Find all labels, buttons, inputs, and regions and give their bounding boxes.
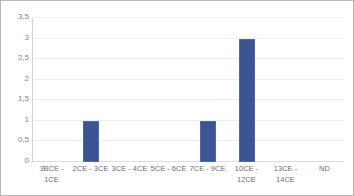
bar[interactable]: [239, 39, 255, 162]
y-axis-tick-label-1-5: 1,5: [3, 95, 29, 103]
bar[interactable]: [83, 121, 99, 162]
y-axis-tick-label-0-5: 0,5: [3, 136, 29, 144]
y-axis-tick-label-0: 0: [3, 157, 29, 165]
bar[interactable]: [200, 121, 216, 162]
x-axis-category-label: 3CE - 4CE: [110, 164, 149, 186]
y-axis-tick-label-3-5: 3,5: [3, 13, 29, 21]
y-axis-tick-label-2-5: 2,5: [3, 54, 29, 62]
x-axis-category-label: 3BCE - 1CE: [32, 164, 71, 186]
x-axis-category-label: 7CE - 9CE: [188, 164, 227, 186]
bar-slot: [188, 18, 227, 162]
bar-slot: [305, 18, 344, 162]
bar-slot: [71, 18, 110, 162]
y-axis-tick-label-1: 1: [3, 116, 29, 124]
bar-slot: [227, 18, 266, 162]
bar-series: [32, 18, 344, 162]
x-axis-category-label: 2CE - 3CE: [71, 164, 110, 186]
bar-slot: [149, 18, 188, 162]
y-axis-tick-label-2: 2: [3, 75, 29, 83]
bar-chart-figure: 3,5 3 2,5 2 1,5 1 0,5 0: [0, 0, 354, 196]
bar-slot: [110, 18, 149, 162]
x-axis-category-label: ND: [305, 164, 344, 186]
bar-slot: [32, 18, 71, 162]
x-axis-category-label: 5CE - 6CE: [149, 164, 188, 186]
x-axis-labels: 3BCE - 1CE 2CE - 3CE 3CE - 4CE 5CE - 6CE…: [32, 164, 344, 186]
y-axis-tick-label-3: 3: [3, 34, 29, 42]
bar-slot: [266, 18, 305, 162]
x-axis-category-label: 10CE - 12CE: [227, 164, 266, 186]
x-axis-category-label: 13CE - 14CE: [266, 164, 305, 186]
